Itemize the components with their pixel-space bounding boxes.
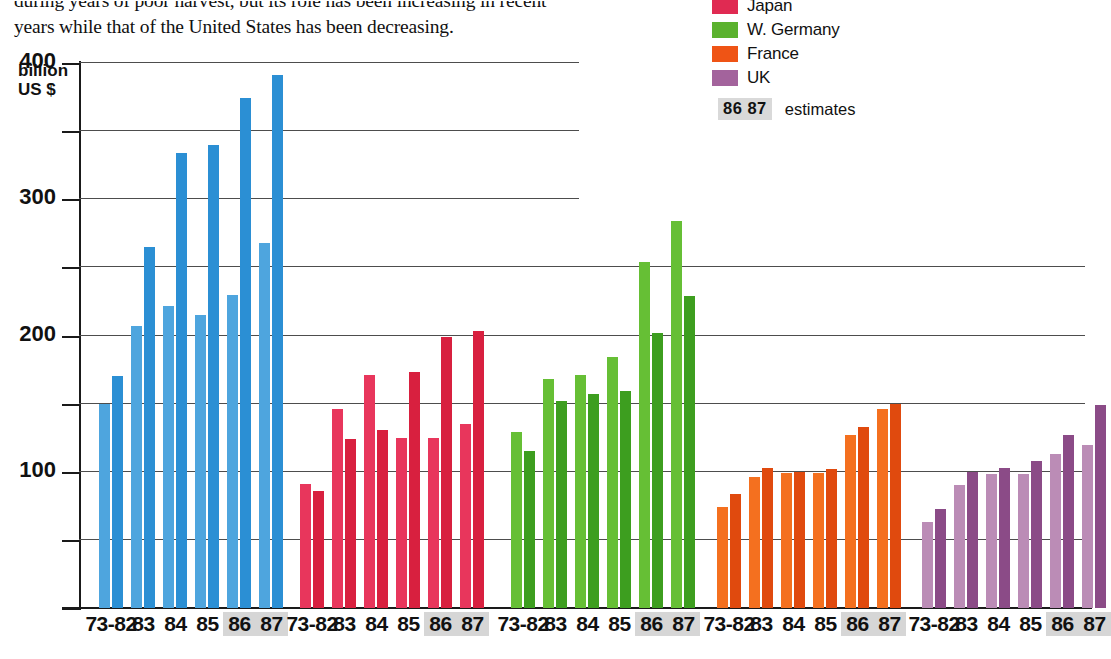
bar-uk-85-a [1018,474,1029,608]
bar-uk-86-b [1063,435,1074,608]
bar-group-united-states [99,63,262,608]
bar-united-states-86-b [240,98,251,608]
bar-w-germany-86-a [639,262,650,608]
bar-w-germany-73-82-b [524,451,535,608]
bar-w-germany-86-b [652,333,663,608]
legend-swatch-wgermany [712,22,738,38]
y-tick-300 [62,199,79,201]
bar-france-84-a [781,473,792,608]
bar-united-states-83-b [144,247,155,608]
bar-group-w-germany [511,63,674,608]
x-axis-label-w-germany-87: 87 [667,612,700,636]
x-axis-label-uk-85: 85 [1014,612,1047,636]
bar-uk-87-a [1082,445,1093,609]
legend-label-wgermany: W. Germany [747,20,839,40]
y-tick-50 [62,540,79,542]
bar-uk-84-b [999,468,1010,608]
bar-w-germany-83-a [543,379,554,608]
bar-united-states-84-a [163,306,174,608]
legend-swatch-japan [712,0,738,14]
bar-japan-83-b [345,439,356,608]
y-tick-400 [62,63,79,65]
bar-japan-84-a [364,375,375,608]
bar-france-84-b [794,472,805,608]
y-tick-350 [62,131,79,133]
bar-france-85-a [813,473,824,608]
bar-united-states-73-82-b [112,376,123,608]
bar-japan-84-b [377,430,388,608]
bar-france-73-82-b [730,494,741,608]
bar-w-germany-83-b [556,401,567,608]
x-axis-label-france-85: 85 [809,612,842,636]
bar-france-86-a [845,435,856,608]
bar-uk-87-b [1095,405,1106,608]
bar-uk-83-b [967,472,978,608]
x-axis-label-w-germany-83: 83 [539,612,572,636]
x-axis-label-france-87: 87 [873,612,906,636]
bar-group-japan [300,63,463,608]
legend-label-japan: Japan [747,0,792,16]
x-axis-label-japan-87: 87 [456,612,489,636]
bar-japan-86-a [428,438,439,608]
bar-france-86-b [858,427,869,608]
bar-group-uk [922,63,1085,608]
bar-uk-73-82-b [935,509,946,608]
x-axis-label-united-states-86: 86 [223,612,256,636]
bar-united-states-84-b [176,153,187,608]
y-tick-150 [62,404,79,406]
bar-uk-85-b [1031,461,1042,608]
bar-france-85-b [826,469,837,608]
x-axis-label-japan-86: 86 [424,612,457,636]
bar-france-87-a [877,409,888,608]
bar-japan-87-a [460,424,471,608]
bar-france-73-82-a [717,507,728,608]
x-axis-label-w-germany-86: 86 [635,612,668,636]
bar-japan-86-b [441,337,452,608]
bar-france-87-b [890,404,901,608]
bar-france-83-a [749,477,760,608]
y-tick-250 [62,267,79,269]
bar-japan-85-b [409,372,420,608]
x-axis-label-uk-83: 83 [950,612,983,636]
y-axis-label-100: 100 [0,457,56,483]
x-axis-label-japan-83: 83 [328,612,361,636]
x-axis-label-united-states-87: 87 [255,612,288,636]
bar-france-83-b [762,468,773,608]
bar-united-states-85-a [195,315,206,608]
x-axis-label-united-states-83: 83 [127,612,160,636]
intro-line-2: years while that of the United States ha… [14,14,674,40]
y-tick-200 [62,336,79,338]
x-axis-label-japan-84: 84 [360,612,393,636]
x-axis-label-united-states-84: 84 [159,612,192,636]
y-tick-0 [62,608,79,610]
bar-united-states-85-b [208,145,219,608]
bar-uk-83-a [954,485,965,608]
y-axis-label-400: 400 [0,48,56,74]
bar-uk-73-82-a [922,522,933,608]
x-axis-label-uk-87: 87 [1078,612,1111,636]
x-axis-label-uk-84: 84 [982,612,1015,636]
intro-paragraph: during years of poor harvest, but its ro… [14,0,674,40]
legend-item-france: France [712,42,992,65]
x-axis-label-france-86: 86 [841,612,874,636]
x-axis-label-w-germany-85: 85 [603,612,636,636]
legend-item-wgermany: W. Germany [712,18,992,41]
bar-japan-73-82-b [313,491,324,608]
bar-japan-83-a [332,409,343,608]
bar-w-germany-84-b [588,394,599,608]
legend-label-france: France [747,44,799,64]
intro-line-1: during years of poor harvest, but its ro… [14,0,674,14]
bar-united-states-73-82-a [99,404,110,608]
x-axis-label-france-84: 84 [777,612,810,636]
x-axis-label-uk-86: 86 [1046,612,1079,636]
bar-w-germany-73-82-a [511,432,522,608]
bar-japan-87-b [473,331,484,608]
bar-w-germany-87-b [684,296,695,608]
y-tick-100 [62,472,79,474]
bar-united-states-86-a [227,295,238,608]
y-axis-unit-line2: US $ [18,80,76,99]
legend-swatch-france [712,46,738,62]
chart-plot-area [79,63,1085,608]
legend-item-japan: Japan [712,0,992,17]
bar-w-germany-84-a [575,375,586,608]
